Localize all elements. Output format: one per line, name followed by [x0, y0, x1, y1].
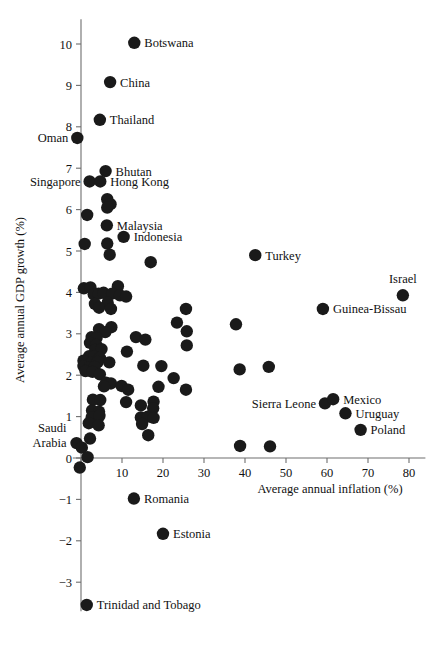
- x-axis-title: Average annual inflation (%): [257, 482, 402, 496]
- point-label-israel: Israel: [389, 272, 417, 286]
- point-label-saudi-arabia: Saudi: [38, 421, 67, 435]
- y-tick-label: 1: [66, 410, 72, 424]
- x-tick-label: 10: [116, 466, 129, 480]
- data-point: [94, 394, 106, 406]
- data-point-malaysia: [101, 219, 113, 231]
- data-point-turkey: [249, 249, 261, 261]
- data-point: [101, 201, 113, 213]
- y-tick-label: −1: [59, 493, 72, 507]
- data-point: [234, 440, 246, 452]
- point-labels-group: BotswanaChinaThailandOmanBhutanSingapore…: [30, 36, 417, 612]
- point-label-estonia: Estonia: [173, 527, 211, 541]
- data-point: [101, 237, 113, 249]
- data-point: [230, 318, 242, 330]
- point-label-guinea-bissau: Guinea-Bissau: [333, 302, 407, 316]
- data-point: [135, 399, 147, 411]
- data-point-singapore: [83, 175, 95, 187]
- data-point: [81, 209, 93, 221]
- data-point: [145, 256, 157, 268]
- data-point-estonia: [157, 528, 169, 540]
- data-point: [155, 360, 167, 372]
- y-tick-label: 10: [60, 38, 73, 52]
- point-label-singapore: Singapore: [30, 175, 81, 189]
- point-label-uruguay: Uruguay: [355, 407, 399, 421]
- y-tick-label: 7: [66, 162, 72, 176]
- point-label-turkey: Turkey: [265, 249, 301, 263]
- plot-svg: −3−2−10123456789101020304050607080 Botsw…: [0, 0, 429, 652]
- point-label-poland: Poland: [371, 423, 406, 437]
- data-point: [180, 383, 192, 395]
- data-point: [152, 381, 164, 393]
- data-point-oman: [71, 132, 83, 144]
- data-point: [136, 418, 148, 430]
- y-tick-label: 3: [66, 327, 72, 341]
- x-tick-label: 50: [280, 466, 293, 480]
- y-tick-label: 9: [66, 79, 72, 93]
- data-point: [142, 429, 154, 441]
- point-label-indonesia: Indonesia: [134, 230, 183, 244]
- data-point: [263, 361, 275, 373]
- data-point: [120, 396, 132, 408]
- y-tick-label: −3: [59, 576, 72, 590]
- point-label-romania: Romania: [144, 492, 190, 506]
- data-point-romania: [128, 492, 140, 504]
- data-point: [78, 238, 90, 250]
- data-point: [233, 363, 245, 375]
- data-point: [181, 339, 193, 351]
- point-label-botswana: Botswana: [144, 36, 194, 50]
- data-point-thailand: [94, 114, 106, 126]
- x-tick-label: 40: [239, 466, 252, 480]
- y-tick-label: 0: [66, 452, 72, 466]
- y-axis-title: Average annual GDP growth (%): [13, 217, 27, 383]
- data-point: [147, 412, 159, 424]
- data-point: [92, 419, 104, 431]
- data-point: [181, 325, 193, 337]
- data-point: [93, 302, 105, 314]
- data-point: [98, 380, 110, 392]
- data-point: [121, 345, 133, 357]
- y-tick-label: 5: [66, 245, 72, 259]
- data-point-israel: [397, 289, 409, 301]
- data-point: [81, 451, 93, 463]
- data-point: [105, 303, 117, 315]
- data-point: [264, 440, 276, 452]
- point-label-sierra-leone: Sierra Leone: [252, 397, 317, 411]
- data-point-uruguay: [339, 407, 351, 419]
- data-point: [171, 316, 183, 328]
- scatter-plot-figure: −3−2−10123456789101020304050607080 Botsw…: [0, 0, 429, 652]
- data-point: [104, 249, 116, 261]
- data-point: [74, 461, 86, 473]
- point-label-trinidad-and-tobago: Trinidad and Tobago: [97, 598, 201, 612]
- y-tick-label: 4: [66, 286, 73, 300]
- point-label-mexico: Mexico: [343, 393, 381, 407]
- point-label-china: China: [120, 76, 150, 90]
- data-point-trinidad-and-tobago: [81, 599, 93, 611]
- data-point-botswana: [128, 37, 140, 49]
- point-label-saudi-arabia-line2: Arabia: [32, 436, 66, 450]
- data-point-china: [104, 76, 116, 88]
- data-point: [167, 372, 179, 384]
- y-tick-label: 6: [66, 203, 72, 217]
- data-point-hong-kong: [94, 175, 106, 187]
- x-tick-label: 20: [157, 466, 170, 480]
- data-point: [120, 290, 132, 302]
- data-point: [180, 303, 192, 315]
- data-point: [122, 383, 134, 395]
- point-label-thailand: Thailand: [110, 113, 155, 127]
- data-point-guinea-bissau: [317, 303, 329, 315]
- data-point-poland: [354, 424, 366, 436]
- x-tick-label: 80: [403, 466, 416, 480]
- x-tick-label: 60: [321, 466, 334, 480]
- point-label-oman: Oman: [38, 131, 69, 145]
- x-tick-label: 70: [362, 466, 375, 480]
- data-point: [137, 359, 149, 371]
- y-tick-label: −2: [59, 534, 72, 548]
- point-label-hong-kong: Hong Kong: [110, 175, 169, 189]
- x-tick-label: 30: [198, 466, 211, 480]
- data-point: [103, 356, 115, 368]
- data-point-mexico: [327, 393, 339, 405]
- data-point: [139, 333, 151, 345]
- y-tick-label: 2: [66, 369, 72, 383]
